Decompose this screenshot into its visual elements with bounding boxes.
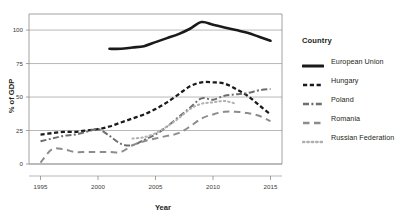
series-line-hungary	[41, 82, 271, 135]
x-tick-label: 1995	[34, 183, 48, 190]
line-chart-svg: 19952000200520102015 0255075100 Year % o…	[0, 0, 295, 218]
legend-label: Russian Federation	[331, 133, 394, 142]
x-tick-label: 2005	[149, 183, 163, 190]
series-line-european-union	[110, 22, 271, 49]
legend-label: Hungary	[331, 76, 359, 85]
x-tick-label: 2000	[91, 183, 105, 190]
y-tick-label: 50	[16, 93, 23, 100]
y-tick-label: 0	[20, 160, 24, 167]
line-key-dashed	[302, 76, 324, 86]
legend-item-european-union[interactable]: European Union	[302, 52, 410, 71]
y-axis-title: % of GDP	[7, 79, 16, 114]
y-tick-label: 25	[16, 127, 23, 134]
series-line-russian-federation	[133, 101, 237, 139]
x-tick-label: 2015	[264, 183, 278, 190]
x-axis-ticks: 19952000200520102015	[34, 176, 278, 190]
series-line-romania	[41, 112, 271, 163]
x-axis-title: Year	[155, 203, 171, 212]
axis-frame	[29, 14, 282, 176]
line-key-solid	[302, 57, 324, 67]
y-tick-label: 75	[16, 60, 23, 67]
legend-label: Poland	[331, 95, 354, 104]
legend-item-hungary[interactable]: Hungary	[302, 71, 410, 90]
series-layer	[41, 22, 271, 163]
legend-item-russian-federation[interactable]: Russian Federation	[302, 128, 410, 147]
legend-item-poland[interactable]: Poland	[302, 90, 410, 109]
line-key-dotted	[302, 133, 324, 143]
legend-items: European UnionHungaryPolandRomaniaRussia…	[302, 52, 410, 147]
series-line-poland	[41, 89, 271, 146]
plot-area: 19952000200520102015 0255075100 Year % o…	[0, 0, 295, 218]
line-key-dashdot	[302, 95, 324, 105]
line-key-longdash	[302, 114, 324, 124]
y-tick-label: 100	[13, 26, 24, 33]
x-tick-label: 2010	[206, 183, 220, 190]
legend-label: Romania	[331, 114, 360, 123]
legend-title: Country	[302, 36, 410, 45]
chart-figure: 19952000200520102015 0255075100 Year % o…	[0, 0, 411, 218]
chart-legend: Country European UnionHungaryPolandRoman…	[302, 36, 410, 147]
legend-label: European Union	[331, 57, 384, 66]
gridlines	[29, 30, 282, 164]
legend-item-romania[interactable]: Romania	[302, 109, 410, 128]
